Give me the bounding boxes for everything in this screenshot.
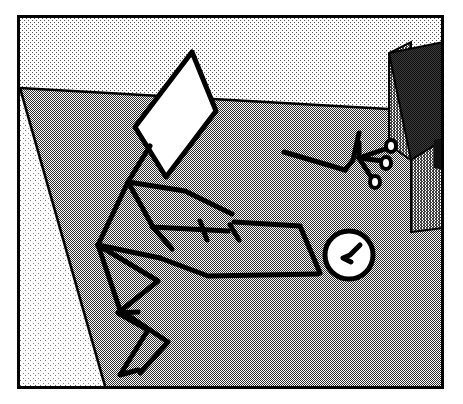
figure-foot-flick — [118, 312, 138, 313]
fingertip-3 — [370, 176, 380, 188]
panel-contents — [20, 18, 443, 386]
fingertip-2 — [381, 157, 391, 169]
panel-artwork — [0, 0, 463, 404]
fingertip-1 — [386, 140, 396, 152]
comic-panel-root: Comic Panel - Stick Figure Reaching Into… — [0, 0, 463, 404]
